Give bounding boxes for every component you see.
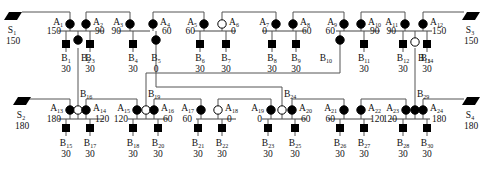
label-subscript: 16	[86, 94, 92, 100]
value-label: 60	[326, 114, 336, 124]
open-switch-icon[interactable]	[278, 106, 286, 114]
closed-switch-icon[interactable]	[336, 36, 344, 44]
source-generator-icon	[4, 12, 22, 20]
feeder-line	[28, 99, 70, 106]
closed-switch-icon[interactable]	[357, 106, 365, 114]
closed-switch-icon[interactable]	[289, 20, 297, 28]
load-square-icon[interactable]	[86, 124, 94, 132]
top-substation-3: A560A60B630B730	[186, 17, 239, 74]
label-subscript: 10	[326, 58, 332, 64]
value-label: 30	[359, 149, 369, 159]
closed-switch-icon[interactable]	[82, 20, 90, 28]
load-square-icon[interactable]	[62, 40, 70, 48]
load-square-icon[interactable]	[86, 40, 94, 48]
value-label: 150	[47, 26, 62, 36]
value-label: 30	[290, 149, 300, 159]
closed-switch-icon[interactable]	[402, 106, 410, 114]
open-switch-icon[interactable]	[74, 106, 82, 114]
value-label: 120	[95, 114, 110, 124]
top-substation-1: A1150A290B130B2B330	[47, 17, 105, 74]
load-square-icon[interactable]	[423, 124, 431, 132]
load-square-icon[interactable]	[360, 40, 368, 48]
value-label: 30	[335, 149, 345, 159]
value-label: 60	[163, 114, 173, 124]
open-switch-icon[interactable]	[411, 38, 419, 46]
load-square-icon[interactable]	[194, 124, 202, 132]
node-label-a18: A18	[225, 103, 238, 114]
closed-switch-icon[interactable]	[74, 36, 82, 44]
value-label: 30	[193, 149, 203, 159]
closed-switch-icon[interactable]	[288, 106, 296, 114]
load-square-icon[interactable]	[62, 124, 70, 132]
closed-switch-icon[interactable]	[411, 106, 419, 114]
load-square-icon[interactable]	[129, 124, 137, 132]
closed-switch-icon[interactable]	[152, 36, 160, 44]
top-substation-6: A1190A12150B1230B13B1430	[385, 17, 446, 74]
value-label: 30	[153, 149, 163, 159]
value-label: 30	[217, 149, 227, 159]
closed-switch-icon[interactable]	[340, 106, 348, 114]
source-s4[interactable]: S4180	[462, 97, 480, 131]
top-substation-4: A70A860B830B930	[259, 17, 312, 74]
source-s3[interactable]: S3150	[462, 12, 480, 46]
load-label-b15: B15	[60, 138, 72, 149]
load-square-icon[interactable]	[399, 124, 407, 132]
closed-switch-icon[interactable]	[340, 20, 348, 28]
node-label-a24: A24	[430, 103, 443, 114]
load-square-icon[interactable]	[291, 124, 299, 132]
closed-switch-icon[interactable]	[126, 20, 134, 28]
load-square-icon[interactable]	[129, 40, 137, 48]
load-square-icon[interactable]	[423, 40, 431, 48]
value-label: 90	[112, 26, 122, 36]
load-square-icon[interactable]	[292, 40, 300, 48]
load-label-b27: B27	[358, 138, 370, 149]
load-square-icon[interactable]	[399, 40, 407, 48]
node-label-a14: A14	[93, 103, 106, 114]
tie-labels: B16B19B24B29	[80, 89, 429, 100]
load-label-b21: B21	[192, 138, 204, 149]
closed-switch-icon[interactable]	[150, 106, 158, 114]
load-label-b11: B11	[358, 53, 370, 64]
load-square-icon[interactable]	[268, 40, 276, 48]
value-label: 30	[128, 149, 138, 159]
load-square-icon[interactable]	[336, 124, 344, 132]
open-switch-icon[interactable]	[214, 106, 222, 114]
source-s2[interactable]: S2180	[13, 97, 31, 131]
substation-groups: A1150A290B130B2B330A390A460B430B50A560A6…	[47, 17, 447, 159]
closed-switch-icon[interactable]	[82, 106, 90, 114]
load-square-icon[interactable]	[154, 124, 162, 132]
label-subscript: 24	[290, 94, 296, 100]
closed-switch-icon[interactable]	[419, 20, 427, 28]
load-square-icon[interactable]	[196, 40, 204, 48]
tie-label-b29: B29	[417, 89, 429, 100]
value-label: 60	[186, 26, 196, 36]
load-label-b25: B25	[289, 138, 301, 149]
closed-switch-icon[interactable]	[267, 106, 275, 114]
node-label-a23: A23	[386, 103, 399, 114]
load-square-icon[interactable]	[222, 40, 230, 48]
load-square-icon[interactable]	[218, 124, 226, 132]
node-label-a15: A15	[117, 103, 130, 114]
open-switch-icon[interactable]	[218, 20, 226, 28]
load-square-icon[interactable]	[264, 124, 272, 132]
value-label: 0	[231, 26, 236, 36]
closed-switch-icon[interactable]	[419, 106, 427, 114]
load-square-icon[interactable]	[360, 124, 368, 132]
closed-switch-icon[interactable]	[66, 20, 74, 28]
load-label-b26: B26	[334, 138, 346, 149]
source-s1[interactable]: S1150	[4, 12, 22, 46]
bottom-substation-5: A2160A22120B2630B2730	[324, 103, 384, 159]
closed-switch-icon[interactable]	[357, 20, 365, 28]
closed-switch-icon[interactable]	[149, 20, 157, 28]
closed-switch-icon[interactable]	[66, 106, 74, 114]
open-switch-icon[interactable]	[142, 106, 150, 114]
closed-switch-icon[interactable]	[272, 20, 280, 28]
closed-switch-icon[interactable]	[401, 20, 409, 28]
closed-switch-icon[interactable]	[200, 20, 208, 28]
node-label-a22: A22	[368, 103, 381, 114]
closed-switch-icon[interactable]	[197, 106, 205, 114]
closed-switch-icon[interactable]	[133, 106, 141, 114]
node-label-a21: A21	[324, 103, 337, 114]
source-generator-icon	[462, 97, 480, 105]
value-label: 150	[6, 36, 21, 46]
